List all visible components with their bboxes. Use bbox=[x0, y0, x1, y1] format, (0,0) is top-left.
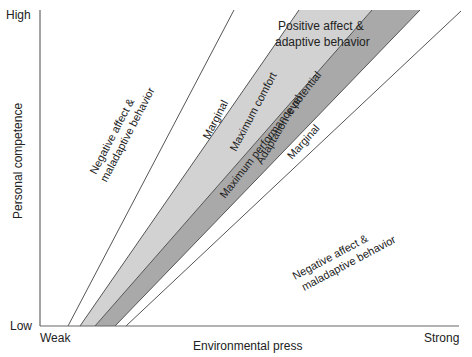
x-strong-label: Strong bbox=[424, 331, 459, 345]
x-weak-label: Weak bbox=[40, 331, 71, 345]
svg-text:Positive affect &: Positive affect & bbox=[278, 19, 364, 33]
negative-affect-lower-label: Negative affect & maladaptive behavior bbox=[290, 221, 397, 295]
y-low-label: Low bbox=[10, 319, 32, 333]
svg-text:adaptive behavior: adaptive behavior bbox=[275, 35, 370, 49]
y-axis-title: Personal competence bbox=[11, 103, 25, 219]
y-high-label: High bbox=[6, 8, 31, 22]
maximum-performance-band bbox=[95, 10, 420, 326]
x-axis-title: Environmental press bbox=[193, 339, 302, 353]
negative-affect-upper-label: Negative affect & maladaptive behavior bbox=[86, 79, 157, 184]
ecological-model-diagram: High Low Personal competence Weak Strong… bbox=[0, 0, 472, 357]
